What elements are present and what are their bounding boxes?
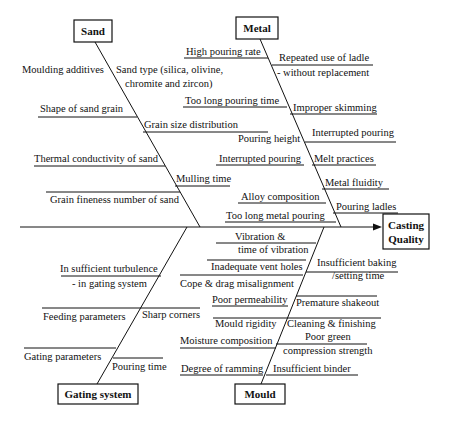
cause-label: Interrupted pouring [312,127,395,138]
cause-label: Interrupted pouring [219,153,302,164]
category-title-gating: Gating system [65,388,132,400]
cause-label: Feeding parameters [43,311,126,322]
cause-label: chromite and zircon) [125,78,213,90]
cause-label: Cleaning & finishing [287,318,376,329]
cause-label: Alloy composition [241,191,320,202]
cause-label: Poor green [305,331,352,342]
cause-label: Pouring time [112,361,167,372]
cause-label: compression strength [283,345,373,356]
sand-causes: Moulding additives Sand type (silica, ol… [22,64,268,205]
cause-label: Too long pouring time [185,95,279,106]
category-title-mould: Mould [244,388,275,400]
category-title-sand: Sand [81,25,105,37]
cause-label: Moulding additives [22,64,104,75]
cause-label: Repeated use of ladle [279,52,369,63]
cause-label: Degree of ramming [181,363,264,374]
fishbone-diagram: Casting Quality Sand Moulding additives … [0,0,454,424]
cause-label: Shape of sand grain [40,103,124,114]
effect-label-2: Quality [388,233,424,245]
cause-label: Inadequate vent holes [211,261,303,272]
cause-label: time of vibration [238,244,309,255]
cause-label: Melt practices [314,153,374,164]
cause-label: High pouring rate [186,46,261,57]
cause-label: Grain size distribution [144,119,239,130]
cause-label: Pouring height [238,133,300,144]
cause-label: Vibration & [235,231,285,242]
cause-label: Improper skimming [293,102,377,113]
mould-causes: Vibration & time of vibration Inadequate… [180,231,398,375]
category-title-metal: Metal [243,22,270,34]
cause-label: Moisture composition [180,335,273,346]
cause-label: Thermal conductivity of sand [34,153,159,164]
cause-label: Sand type (silica, olivine, [116,64,223,76]
cause-label: /setting time [332,270,385,281]
cause-label: Insufficient binder [273,363,351,374]
cause-label: Poor permeability [212,294,288,305]
effect-label-1: Casting [388,219,425,231]
cause-label: Pouring ladles [336,201,396,212]
cause-label: Gating parameters [24,351,101,362]
cause-label: - without replacement [277,67,369,78]
cause-label: Too long metal pouring [226,210,325,221]
arrow-head-icon [373,224,382,231]
cause-label: - in gating system [72,278,147,289]
cause-label: In sufficient turbulence [60,263,158,274]
cause-label: Grain fineness number of sand [50,194,180,205]
cause-label: Cope & drag misalignment [180,278,294,289]
gating-causes: In sufficient turbulence - in gating sys… [24,263,200,372]
cause-label: Mould rigidity [215,318,277,329]
cause-label: Sharp corners [142,309,200,320]
cause-label: Metal fluidity [325,177,384,188]
cause-label: Mulling time [176,173,231,184]
cause-label: Premature shakeout [296,297,379,308]
cause-label: Insufficient baking [317,257,397,268]
